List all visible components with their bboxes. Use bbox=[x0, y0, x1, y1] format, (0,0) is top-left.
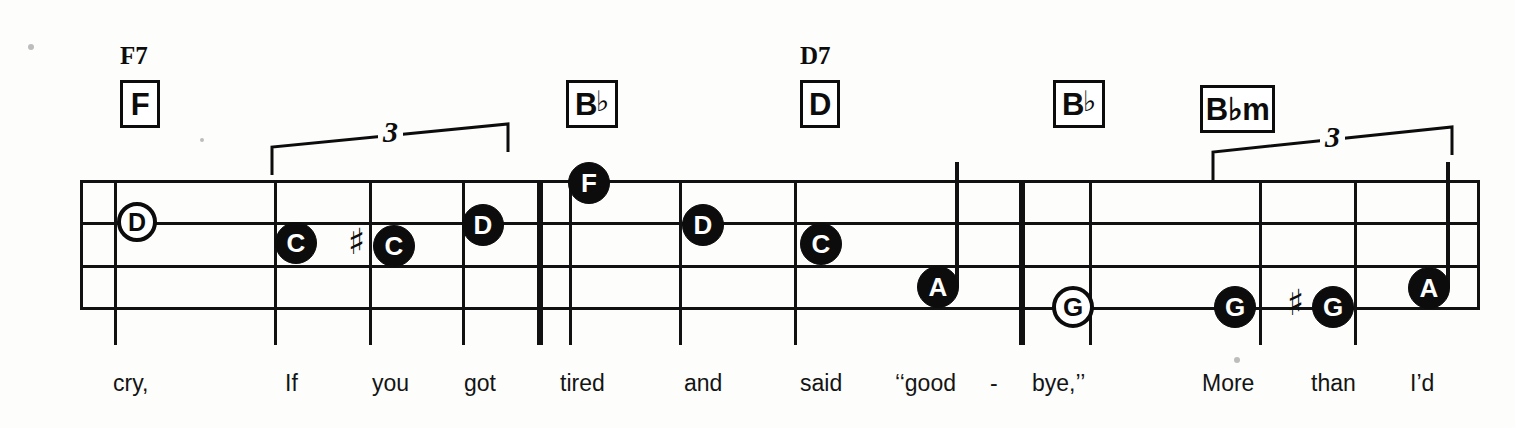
lyric-more: More bbox=[1202, 370, 1254, 397]
note-f-1[interactable]: F bbox=[568, 162, 610, 204]
chord-box-2[interactable]: B♭ bbox=[566, 80, 618, 128]
scan-speck-1 bbox=[28, 44, 34, 50]
lyric-if: If bbox=[285, 370, 298, 397]
note-g-sharp[interactable]: G bbox=[1312, 286, 1354, 328]
lyric-tired: tired bbox=[560, 370, 605, 397]
barline-10 bbox=[1354, 180, 1357, 345]
note-letter: A bbox=[1420, 275, 1439, 301]
note-letter: G bbox=[1063, 294, 1083, 320]
chord-box-label: D bbox=[809, 89, 831, 120]
sheet-music-canvas: FF7B♭DD7B♭B♭mDC♯CDFDCAGG♯GA33cry,Ifyougo… bbox=[0, 0, 1515, 428]
note-letter: C bbox=[385, 233, 404, 259]
barline-4 bbox=[462, 180, 465, 345]
note-letter: F bbox=[581, 170, 597, 196]
note-letter: C bbox=[812, 231, 831, 257]
note-letter: G bbox=[1225, 294, 1245, 320]
triplet-bracket-2-digit: 3 bbox=[1320, 122, 1345, 152]
barline-6 bbox=[679, 180, 682, 345]
barline-2 bbox=[274, 180, 277, 345]
staff-right-edge bbox=[1477, 180, 1480, 310]
double-barline bbox=[537, 180, 543, 345]
note-a-1[interactable]: A bbox=[917, 266, 959, 308]
note-g-1[interactable]: G bbox=[1052, 286, 1094, 328]
note-c-1[interactable]: C bbox=[275, 222, 317, 264]
lyric-hyphen: - bbox=[990, 370, 998, 397]
barline-7 bbox=[794, 180, 797, 345]
note-letter: D bbox=[694, 212, 713, 238]
triplet-bracket-2: 3 bbox=[1207, 121, 1458, 186]
lyric-id: I’d bbox=[1410, 370, 1434, 397]
staff-line-3 bbox=[80, 265, 1480, 268]
lyric-bye: bye,’’ bbox=[1032, 370, 1085, 397]
lyric-got: got bbox=[464, 370, 496, 397]
scan-speck-3 bbox=[1234, 357, 1240, 363]
note-c-sharp-accidental-sharp-icon: ♯ bbox=[348, 224, 365, 260]
note-letter: G bbox=[1323, 294, 1343, 320]
lyric-cry: cry, bbox=[113, 370, 148, 397]
chord-box-label: B♭m bbox=[1206, 94, 1269, 125]
lyric-good: ‘‘good bbox=[895, 370, 956, 397]
chord-name-above-3: D7 bbox=[800, 42, 831, 70]
note-letter: A bbox=[929, 274, 948, 300]
chord-box-label: F bbox=[131, 89, 149, 120]
note-d-1[interactable]: D bbox=[117, 202, 157, 242]
flat-symbol-icon: ♭ bbox=[596, 88, 609, 117]
note-c-sharp[interactable]: C bbox=[373, 225, 415, 267]
scan-speck-2 bbox=[200, 138, 204, 142]
chord-name-above-1: F7 bbox=[120, 42, 148, 70]
chord-box-label: B bbox=[1062, 89, 1084, 120]
chord-box-label: B bbox=[575, 89, 597, 120]
barline-1 bbox=[114, 180, 117, 345]
lyric-and: and bbox=[684, 370, 722, 397]
note-a-1-stem bbox=[955, 162, 959, 287]
triplet-bracket-1: 3 bbox=[266, 118, 514, 181]
note-letter: D bbox=[128, 210, 146, 235]
note-letter: C bbox=[287, 230, 306, 256]
lyric-said: said bbox=[800, 370, 842, 397]
flat-symbol-icon: ♭ bbox=[1083, 88, 1096, 117]
lyric-you: you bbox=[372, 370, 409, 397]
barline-9 bbox=[1259, 180, 1262, 345]
note-d-2[interactable]: D bbox=[462, 204, 504, 246]
chord-box-4[interactable]: B♭ bbox=[1053, 80, 1105, 128]
triplet-bracket-1-digit: 3 bbox=[378, 117, 403, 147]
chord-box-3[interactable]: D bbox=[800, 80, 840, 128]
note-d-3[interactable]: D bbox=[682, 204, 724, 246]
chord-box-1[interactable]: F bbox=[120, 80, 160, 128]
lyric-than: than bbox=[1311, 370, 1356, 397]
note-g-sharp-accidental-sharp-icon: ♯ bbox=[1287, 285, 1304, 321]
note-g-2[interactable]: G bbox=[1214, 286, 1256, 328]
heavy-barline bbox=[1019, 180, 1025, 345]
staff-line-4 bbox=[80, 307, 1480, 310]
note-letter: D bbox=[474, 212, 493, 238]
note-c-2[interactable]: C bbox=[800, 223, 842, 265]
barline-3 bbox=[369, 180, 372, 345]
barline-5 bbox=[569, 180, 572, 345]
staff-left-edge bbox=[80, 180, 83, 310]
note-a-2[interactable]: A bbox=[1408, 267, 1450, 309]
